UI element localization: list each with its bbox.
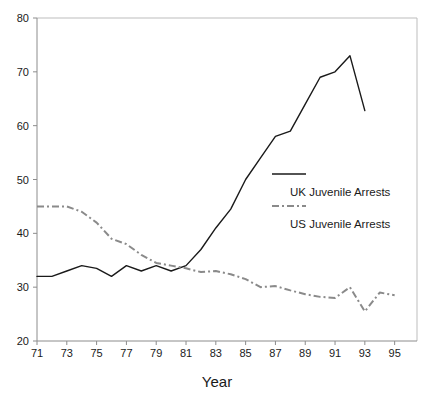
legend-label-us: US Juvenile Arrests	[290, 218, 391, 230]
x-tick-label: 73	[61, 347, 73, 359]
line-chart: 20304050607080 7173757779818385878991939…	[0, 0, 434, 399]
x-tick-label: 93	[359, 347, 371, 359]
chart-container: 20304050607080 7173757779818385878991939…	[0, 0, 434, 399]
y-tick-label: 50	[17, 174, 29, 186]
y-tick-label: 80	[17, 12, 29, 24]
x-tick-label: 75	[90, 347, 102, 359]
legend-label-uk: UK Juvenile Arrests	[290, 186, 391, 198]
x-tick-label: 91	[329, 347, 341, 359]
x-tick-label: 83	[210, 347, 222, 359]
plot-frame	[37, 18, 417, 341]
x-tick-label: 87	[269, 347, 281, 359]
x-tick-label: 81	[180, 347, 192, 359]
y-tick-label: 40	[17, 227, 29, 239]
y-tick-label: 70	[17, 66, 29, 78]
x-tick-label: 71	[31, 347, 43, 359]
x-tick-label: 95	[389, 347, 401, 359]
x-axis: 71737577798183858789919395	[31, 341, 417, 359]
x-tick-label: 85	[240, 347, 252, 359]
y-tick-label: 30	[17, 281, 29, 293]
y-tick-label: 60	[17, 120, 29, 132]
x-tick-label: 89	[299, 347, 311, 359]
x-tick-label: 79	[150, 347, 162, 359]
chart-legend: UK Juvenile Arrests US Juvenile Arrests	[272, 174, 391, 230]
y-tick-label: 20	[17, 335, 29, 347]
x-axis-title: Year	[202, 373, 232, 390]
x-tick-label: 77	[120, 347, 132, 359]
y-axis: 20304050607080	[17, 12, 37, 347]
series-lines	[37, 56, 395, 312]
series-line-uk	[37, 56, 365, 277]
